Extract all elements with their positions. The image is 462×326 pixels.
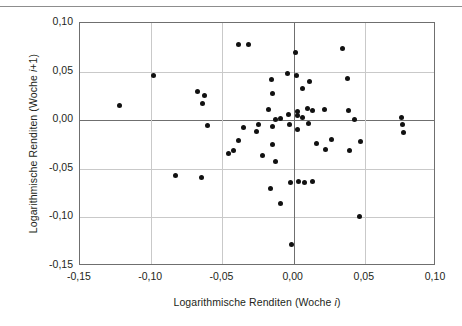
- gridline-horizontal: [80, 217, 434, 218]
- zero-axis-horizontal: [80, 120, 434, 121]
- data-point: [310, 108, 315, 113]
- data-point: [231, 148, 236, 153]
- data-point: [307, 79, 312, 84]
- data-point: [202, 93, 207, 98]
- data-point: [295, 127, 300, 132]
- data-point: [285, 71, 290, 76]
- data-point: [329, 137, 334, 142]
- y-tick-label: 0,10: [17, 16, 73, 27]
- data-point: [306, 121, 311, 126]
- top-rule: [0, 6, 462, 7]
- x-tick-label: -0,15: [49, 271, 109, 282]
- x-tick-label: -0,05: [191, 271, 251, 282]
- y-tick-label: 0,05: [17, 65, 73, 76]
- data-point: [347, 148, 352, 153]
- x-axis-title-index: i: [335, 296, 337, 308]
- data-point: [226, 151, 231, 156]
- data-point: [345, 76, 350, 81]
- y-tick-label: -0,15: [17, 259, 73, 270]
- data-point: [241, 125, 246, 130]
- data-point: [314, 141, 319, 146]
- data-point: [286, 112, 291, 117]
- y-tick-label: -0,05: [17, 162, 73, 173]
- gridline-horizontal: [80, 169, 434, 170]
- data-point: [268, 186, 273, 191]
- data-point: [270, 124, 275, 129]
- x-tick-label: 0,00: [263, 271, 323, 282]
- data-point: [200, 101, 205, 106]
- data-point: [287, 122, 292, 127]
- data-point: [278, 116, 283, 121]
- data-point: [266, 107, 271, 112]
- y-tick-label: -0,10: [17, 210, 73, 221]
- x-axis-title: Logarithmische Renditen (Woche i): [79, 296, 435, 308]
- x-tick-label: -0,10: [120, 271, 180, 282]
- data-point: [151, 73, 156, 78]
- data-point: [346, 108, 351, 113]
- scatter-plot-figure: Logarithmische Renditen (Woche i+1) Loga…: [0, 0, 462, 326]
- data-point: [296, 179, 301, 184]
- plot-area: [79, 22, 435, 265]
- data-point: [273, 159, 278, 164]
- data-point: [293, 50, 298, 55]
- data-point: [310, 179, 315, 184]
- data-point: [294, 73, 299, 78]
- data-point: [288, 180, 293, 185]
- data-point: [260, 153, 265, 158]
- data-point: [289, 242, 294, 247]
- gridline-vertical: [222, 23, 223, 264]
- data-point: [273, 117, 278, 122]
- y-tick-label: 0,00: [17, 113, 73, 124]
- data-point: [199, 175, 204, 180]
- data-point: [278, 201, 283, 206]
- gridline-vertical: [151, 23, 152, 264]
- data-point: [173, 173, 178, 178]
- data-point: [236, 138, 241, 143]
- gridline-vertical: [365, 23, 366, 264]
- zero-axis-vertical: [294, 23, 295, 264]
- data-point: [401, 130, 406, 135]
- data-point: [300, 86, 305, 91]
- gridline-horizontal: [80, 72, 434, 73]
- x-tick-label: 0,10: [405, 271, 462, 282]
- x-tick-label: 0,05: [334, 271, 394, 282]
- data-point: [246, 42, 251, 47]
- data-point: [195, 89, 200, 94]
- data-point: [358, 139, 363, 144]
- data-point: [322, 107, 327, 112]
- data-point: [340, 46, 345, 51]
- data-point: [117, 103, 122, 108]
- y-axis-title: Logarithmische Renditen (Woche i+1): [22, 22, 44, 265]
- data-point: [205, 123, 210, 128]
- data-point: [236, 42, 241, 47]
- data-point: [400, 122, 405, 127]
- data-point: [323, 147, 328, 152]
- data-point: [302, 180, 307, 185]
- data-point: [254, 129, 259, 134]
- data-point: [357, 214, 362, 219]
- data-point: [256, 122, 261, 127]
- data-point: [270, 91, 275, 96]
- data-point: [270, 142, 275, 147]
- data-point: [269, 77, 274, 82]
